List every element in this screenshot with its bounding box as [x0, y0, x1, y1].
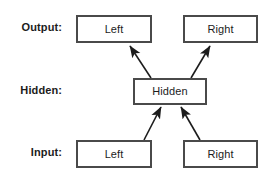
- edge-hidden-to-output-left: [130, 46, 151, 78]
- node-input-right[interactable]: Right: [183, 140, 258, 168]
- node-output-right-label: Right: [207, 24, 233, 35]
- node-hidden[interactable]: Hidden: [133, 78, 207, 105]
- row-label-hidden: Hidden:: [15, 85, 62, 96]
- row-label-input: Input:: [15, 147, 62, 158]
- node-input-left[interactable]: Left: [76, 140, 152, 168]
- edge-hidden-to-output-right: [191, 46, 210, 78]
- edge-input-right-to-hidden: [181, 107, 200, 140]
- node-hidden-label: Hidden: [152, 86, 187, 97]
- node-input-left-label: Left: [105, 149, 124, 160]
- edge-input-left-to-hidden: [144, 107, 161, 140]
- node-input-right-label: Right: [207, 149, 233, 160]
- network-diagram: Output: Left Right Hidden: Hidden Input:…: [0, 0, 271, 179]
- node-output-left-label: Left: [105, 24, 124, 35]
- row-label-output: Output:: [15, 22, 62, 33]
- node-output-left[interactable]: Left: [76, 15, 152, 43]
- node-output-right[interactable]: Right: [183, 15, 258, 43]
